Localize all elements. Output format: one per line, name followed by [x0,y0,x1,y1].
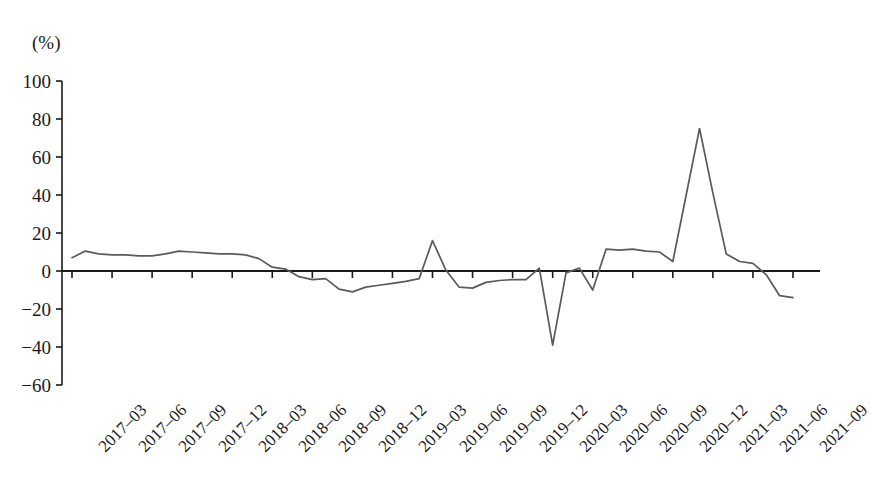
data-line-1 [72,129,793,346]
y-axis-tick-label: 20 [32,223,51,244]
y-axis-tick-label: 100 [23,71,52,92]
y-axis-tick-label: −60 [21,375,51,396]
x-axis [62,271,820,278]
y-axis-tick-label: −40 [21,337,51,358]
y-axis-tick-label: 0 [42,261,52,282]
y-axis: 100806040200−20−40−60 [21,71,62,396]
y-axis-tick-label: 60 [32,147,51,168]
y-axis-tick-label: 80 [32,109,51,130]
data-series-group [72,129,793,346]
y-axis-tick-label: 40 [32,185,51,206]
y-axis-tick-label: −20 [21,299,51,320]
